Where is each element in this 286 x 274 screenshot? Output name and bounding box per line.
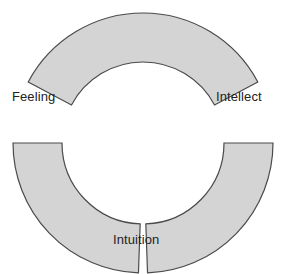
bottom-right-arc-segment (146, 143, 273, 273)
bottom-left-arc-segment (13, 143, 140, 273)
label-feeling: Feeling (12, 89, 55, 104)
triad-diagram: Feeling Intellect Intuition (0, 0, 286, 274)
label-intuition: Intuition (113, 232, 159, 247)
label-intellect: Intellect (216, 89, 262, 104)
